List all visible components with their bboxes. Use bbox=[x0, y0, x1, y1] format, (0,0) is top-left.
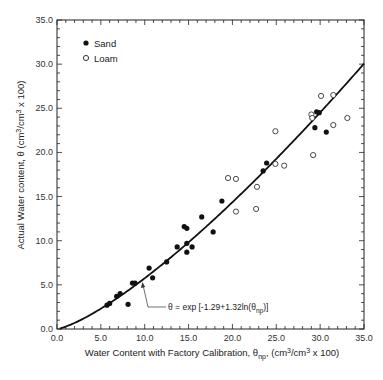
sand-point bbox=[317, 110, 322, 115]
y-tick-label: 35.0 bbox=[35, 15, 53, 25]
sand-point bbox=[264, 160, 269, 165]
loam-point bbox=[282, 163, 287, 168]
loam-points bbox=[225, 92, 349, 214]
fit-annotation: θ = exp [-1.29+1.32ln(θnp)] bbox=[141, 282, 268, 315]
sand-point bbox=[118, 291, 123, 296]
y-tick-label: 5.0 bbox=[40, 280, 53, 290]
loam-point bbox=[331, 122, 336, 127]
sand-point bbox=[184, 250, 189, 255]
sand-point bbox=[184, 226, 189, 231]
sand-point bbox=[189, 244, 194, 249]
loam-point bbox=[310, 115, 315, 120]
loam-point bbox=[311, 152, 316, 157]
y-axis-title: Actual Water content, θ (cm3/cm3 x 100) bbox=[15, 80, 27, 249]
y-tick-label: 20.0 bbox=[35, 147, 53, 157]
legend-loam-marker-icon bbox=[83, 55, 88, 60]
x-tick-label: 5.0 bbox=[95, 333, 108, 343]
x-tick-label: 15.0 bbox=[180, 333, 198, 343]
y-tick-label: 0.0 bbox=[40, 324, 53, 334]
x-tick-label: 10.0 bbox=[136, 333, 154, 343]
x-tick-labels: 0.05.010.015.020.025.030.035.0 bbox=[51, 333, 373, 343]
arrow-head-icon bbox=[141, 282, 145, 288]
loam-point bbox=[331, 92, 336, 97]
loam-point bbox=[233, 176, 238, 181]
annotation-text: θ = exp [-1.29+1.32ln(θnp)] bbox=[168, 302, 268, 315]
loam-point bbox=[273, 129, 278, 134]
sand-point bbox=[164, 259, 169, 264]
y-tick-label: 30.0 bbox=[35, 59, 53, 69]
legend-loam-label: Loam bbox=[94, 53, 118, 64]
loam-point bbox=[273, 161, 278, 166]
sand-point bbox=[324, 130, 329, 135]
x-tick-label: 35.0 bbox=[355, 333, 373, 343]
sand-point bbox=[125, 302, 130, 307]
scatter-chart: 0.05.010.015.020.025.030.035.0 0.05.010.… bbox=[0, 0, 383, 380]
sand-point bbox=[312, 125, 317, 130]
x-tick-label: 20.0 bbox=[224, 333, 242, 343]
loam-point bbox=[233, 209, 238, 214]
sand-point bbox=[211, 229, 216, 234]
fit-curve bbox=[60, 64, 364, 329]
sand-point bbox=[150, 275, 155, 280]
sand-point bbox=[261, 168, 266, 173]
sand-point bbox=[184, 241, 189, 246]
legend-sand-label: Sand bbox=[94, 38, 116, 49]
loam-point bbox=[254, 184, 259, 189]
loam-point bbox=[345, 115, 350, 120]
sand-point bbox=[175, 244, 180, 249]
y-tick-labels: 0.05.010.015.020.025.030.035.0 bbox=[35, 15, 53, 334]
loam-point bbox=[318, 93, 323, 98]
annotation-arrow-line bbox=[143, 285, 166, 307]
loam-point bbox=[254, 206, 259, 211]
x-tick-label: 30.0 bbox=[311, 333, 329, 343]
y-tick-label: 25.0 bbox=[35, 103, 53, 113]
sand-point bbox=[147, 265, 152, 270]
sand-point bbox=[132, 280, 137, 285]
axis-ticks bbox=[57, 20, 364, 329]
y-tick-label: 10.0 bbox=[35, 236, 53, 246]
loam-point bbox=[225, 175, 230, 180]
y-tick-label: 15.0 bbox=[35, 192, 53, 202]
plot-border bbox=[57, 20, 364, 329]
sand-point bbox=[107, 301, 112, 306]
sand-point bbox=[219, 198, 224, 203]
sand-point bbox=[199, 214, 204, 219]
x-tick-label: 0.0 bbox=[51, 333, 64, 343]
x-axis-title: Water Content with Factory Calibration, … bbox=[85, 347, 339, 361]
legend: Sand Loam bbox=[83, 38, 117, 64]
x-tick-label: 25.0 bbox=[268, 333, 286, 343]
plot-frame bbox=[57, 20, 364, 329]
legend-sand-marker-icon bbox=[83, 40, 88, 45]
